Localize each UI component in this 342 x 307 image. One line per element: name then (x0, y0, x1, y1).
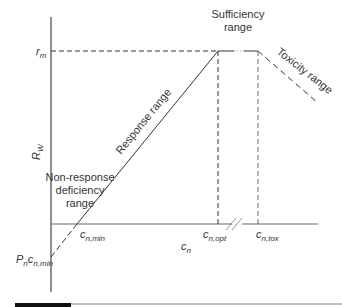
nonresponse-label: Non-response (45, 171, 114, 183)
sufficiency-label: Sufficiency (212, 8, 265, 20)
cmin-label: cn,min (80, 228, 106, 243)
response-diagram: rm RW Sufficiency range Toxicity range R… (0, 0, 342, 307)
nonresponse-label: range (66, 197, 94, 209)
x-axis-label: cn (181, 240, 192, 255)
y-axis-label: RW (30, 143, 45, 160)
extrapolation-dashed-line (51, 224, 77, 257)
nonresponse-label: deficiency (56, 184, 105, 196)
copt-label: cn,opt (203, 228, 227, 243)
intercept-label: Pncn,min (16, 253, 53, 268)
sufficiency-label: range (224, 21, 252, 33)
response-range-label: Response range (113, 86, 173, 156)
caption-block (15, 303, 71, 307)
ctox-label: cn,tox (256, 228, 280, 243)
response-line (77, 51, 218, 224)
toxicity-label: Toxicity range (275, 45, 335, 96)
rmax-label: rm (36, 45, 47, 60)
